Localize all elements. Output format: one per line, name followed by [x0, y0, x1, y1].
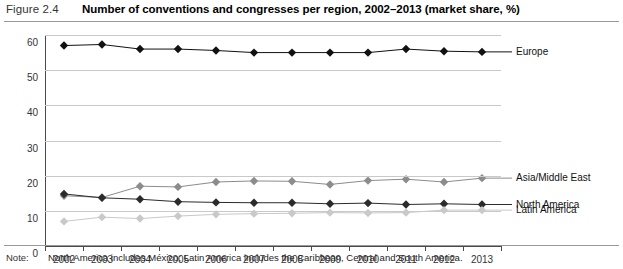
x-tick-2008: [273, 246, 274, 251]
header-divider: [4, 21, 619, 22]
x-tick-2010: [349, 246, 350, 251]
marker-europe-2006: [212, 46, 220, 54]
marker-europe-2008: [288, 48, 296, 56]
marker-europe-2011: [402, 45, 410, 53]
marker-europe-2010: [364, 48, 372, 56]
x-tick-2006: [197, 246, 198, 251]
legend-label-europe: Europe: [516, 46, 548, 57]
marker-europe-2004: [136, 45, 144, 53]
marker-north-america-2003: [98, 194, 106, 202]
gridline-40: [45, 105, 501, 106]
x-tick-2003: [83, 246, 84, 251]
marker-north-america-2006: [212, 198, 220, 206]
marker-asia-middle-east-2009: [326, 180, 334, 188]
note-text: North America includes México; Latin Ame…: [48, 252, 463, 263]
marker-north-america-2011: [402, 200, 410, 208]
marker-north-america-2007: [250, 199, 258, 207]
x-tick-label-2013: 2013: [459, 254, 505, 265]
x-tick-2012: [425, 246, 426, 251]
gridline-50: [45, 70, 501, 71]
marker-latin-america-2003: [98, 213, 106, 221]
marker-latin-america-2009: [326, 208, 334, 216]
marker-europe-2007: [250, 48, 258, 56]
series-line-asia-middle-east: [64, 178, 482, 197]
marker-north-america-2008: [288, 199, 296, 207]
marker-asia-middle-east-2004: [136, 182, 144, 190]
figure-title: Number of conventions and congresses per…: [82, 3, 520, 15]
note-label: Note:: [6, 252, 29, 263]
series-line-north-america: [64, 194, 482, 205]
footer-divider: [4, 245, 619, 246]
figure-container: Figure 2.4 Number of conventions and con…: [0, 0, 623, 269]
gridline-10: [45, 211, 501, 212]
x-tick-2002: [45, 246, 46, 251]
x-tick-2013: [463, 246, 464, 251]
marker-latin-america-2002: [60, 217, 68, 225]
x-tick-end: [501, 246, 502, 251]
marker-europe-2003: [98, 40, 106, 48]
gridline-30: [45, 141, 501, 142]
x-tick-2005: [159, 246, 160, 251]
marker-asia-middle-east-2010: [364, 176, 372, 184]
x-tick-2007: [235, 246, 236, 251]
marker-asia-middle-east-2007: [250, 177, 258, 185]
marker-north-america-2005: [174, 197, 182, 205]
marker-europe-2012: [440, 47, 448, 55]
gridline-20: [45, 176, 501, 177]
x-tick-2011: [387, 246, 388, 251]
marker-north-america-2004: [136, 195, 144, 203]
x-tick-2004: [121, 246, 122, 251]
marker-north-america-2009: [326, 200, 334, 208]
figure-number: Figure 2.4: [6, 3, 59, 15]
marker-asia-middle-east-2006: [212, 178, 220, 186]
marker-europe-2009: [326, 48, 334, 56]
marker-europe-2005: [174, 45, 182, 53]
marker-north-america-2010: [364, 199, 372, 207]
legend-label-asia-middle-east: Asia/Middle East: [516, 172, 590, 183]
x-tick-2009: [311, 246, 312, 251]
marker-asia-middle-east-2005: [174, 183, 182, 191]
marker-asia-middle-east-2012: [440, 178, 448, 186]
figure-header: Figure 2.4 Number of conventions and con…: [0, 0, 623, 22]
marker-europe-2002: [60, 41, 68, 49]
marker-latin-america-2004: [136, 214, 144, 222]
marker-latin-america-2011: [402, 208, 410, 216]
marker-latin-america-2005: [174, 212, 182, 220]
gridline-60: [45, 35, 501, 36]
series-line-europe: [64, 44, 482, 52]
marker-asia-middle-east-2008: [288, 177, 296, 185]
legend-label-latin-america: Latin America: [516, 204, 577, 215]
